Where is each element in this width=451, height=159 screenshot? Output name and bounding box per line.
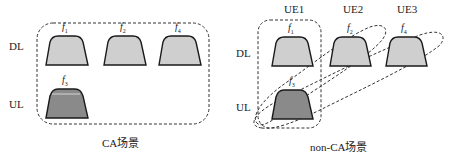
carrier-f1-dl-right (272, 37, 313, 66)
carrier-label-f4-right: f4 (401, 22, 407, 35)
caption-ca: CA场景 (102, 134, 139, 150)
column-label-ue1: UE1 (284, 3, 304, 15)
row-label-dl-left: DL (9, 40, 24, 52)
carrier-label-f3-right: f3 (289, 75, 295, 88)
caption-non-ca: non-CA场景 (310, 138, 367, 154)
carrier-label-f1-left: f1 (62, 21, 68, 34)
row-label-ul-right: UL (236, 101, 251, 113)
carrier-f2-dl-left (104, 36, 146, 65)
row-label-dl-right: DL (236, 47, 251, 59)
carrier-label-f4-left: f4 (175, 21, 181, 34)
carrier-f1-dl-left (46, 36, 88, 65)
row-label-ul-left: UL (9, 98, 24, 110)
carrier-label-f2-left: f2 (120, 21, 126, 34)
carrier-f3-ul-right (272, 90, 313, 119)
carrier-f2-dl-right (330, 37, 371, 66)
carrier-f4-dl-right (386, 37, 427, 66)
carrier-label-f3-left: f3 (62, 74, 68, 87)
carrier-f4-dl-left (159, 36, 201, 65)
column-label-ue2: UE2 (343, 3, 363, 15)
column-label-ue3: UE3 (397, 3, 417, 15)
carrier-f3-ul-left (46, 89, 88, 118)
carrier-label-f1-right: f1 (288, 22, 294, 35)
carrier-label-f2-right: f2 (347, 22, 353, 35)
